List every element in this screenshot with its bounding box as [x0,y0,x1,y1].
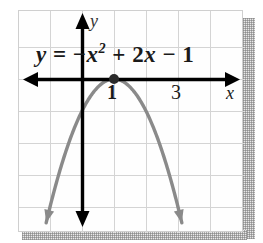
y-axis-label: y [90,12,98,30]
equation-equals-sign: = [53,42,67,67]
equation-label: y = −x2 + 2x − 1 [36,41,194,66]
equation-quadratic-sign: − [73,42,87,67]
x-tick-label-1: 1 [107,82,117,102]
x-axis-label: x [226,84,234,102]
figure-shadow-right [243,18,255,239]
equation-quadratic-exponent: 2 [98,40,106,56]
x-tick-label-3: 3 [171,82,181,102]
equation-variable-y: y [36,42,47,67]
equation-constant-term: − 1 [162,42,194,67]
equation-quadratic-base: x [86,42,98,67]
graph-figure: y = −x2 + 2x − 1 1 3 x y [0,0,263,243]
x-axis [23,72,240,87]
equation-linear-term: + 2x [112,42,156,67]
